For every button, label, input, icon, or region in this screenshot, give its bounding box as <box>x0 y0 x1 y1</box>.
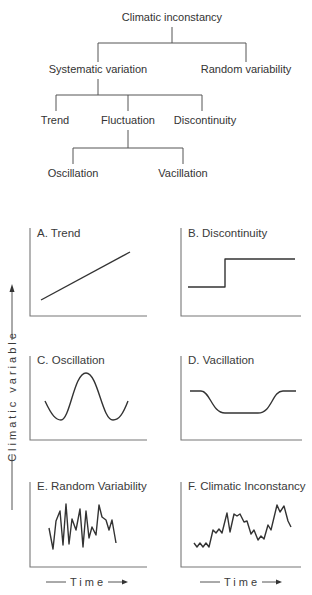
x-axis-label-time-left: Time <box>70 576 106 588</box>
panel-title-discontinuity: B. Discontinuity <box>188 227 268 239</box>
panel-climatic-inconstancy: F. Climatic Inconstancy Time <box>181 480 306 588</box>
x-axis-label-right: Time <box>200 576 282 588</box>
panel-random-variability: E. Random Variability Time <box>30 480 147 588</box>
x-axis-label-left: Time <box>46 576 128 588</box>
panel-title-climatic-inconstancy: F. Climatic Inconstancy <box>188 480 306 492</box>
y-axis-label: Climatic variable <box>6 330 18 462</box>
panel-axes-trend <box>30 228 147 316</box>
panel-axes-discontinuity <box>181 228 301 316</box>
tree-node-vacillation: Vacillation <box>158 167 207 179</box>
panel-oscillation: C. Oscillation <box>30 354 147 440</box>
tree-connector-systematic <box>56 79 202 111</box>
panel-title-random-variability: E. Random Variability <box>37 480 147 492</box>
panel-axes-vacillation <box>181 356 302 440</box>
panel-title-trend: A. Trend <box>37 227 80 239</box>
tree-connector-fluctuation <box>73 130 183 164</box>
vacillation-line <box>190 391 296 413</box>
tree-node-systematic-variation: Systematic variation <box>49 63 147 75</box>
tree-node-discontinuity: Discontinuity <box>174 114 237 126</box>
panel-axes-climatic-inconstancy <box>181 482 301 567</box>
x-axis-arrow-icon <box>276 580 282 585</box>
climatic-inconstancy-diagram: Climatic inconstancy Systematic variatio… <box>0 0 312 595</box>
random-variability-line <box>49 504 116 549</box>
tree-connector-root <box>98 27 246 62</box>
oscillation-line <box>45 373 128 420</box>
tree-node-random-variability: Random variability <box>201 63 292 75</box>
y-axis-label-group: Climatic variable <box>6 284 18 510</box>
panel-discontinuity: B. Discontinuity <box>181 227 301 316</box>
panel-vacillation: D. Vacillation <box>181 354 302 440</box>
panel-trend: A. Trend <box>30 227 147 316</box>
panel-title-vacillation: D. Vacillation <box>188 354 254 366</box>
panel-axes-random-variability <box>30 482 147 567</box>
panel-title-oscillation: C. Oscillation <box>37 354 105 366</box>
discontinuity-line <box>188 259 295 287</box>
y-axis-arrow-icon <box>10 284 15 292</box>
panel-axes-oscillation <box>30 356 147 440</box>
tree-node-fluctuation: Fluctuation <box>101 114 155 126</box>
x-axis-arrow-icon <box>122 580 128 585</box>
trend-line <box>41 252 130 300</box>
tree-node-trend: Trend <box>41 114 69 126</box>
climatic-inconstancy-line <box>194 505 291 547</box>
classification-tree: Climatic inconstancy Systematic variatio… <box>41 11 292 179</box>
tree-node-oscillation: Oscillation <box>48 167 99 179</box>
tree-root-label: Climatic inconstancy <box>122 11 223 23</box>
x-axis-label-time-right: Time <box>224 576 260 588</box>
